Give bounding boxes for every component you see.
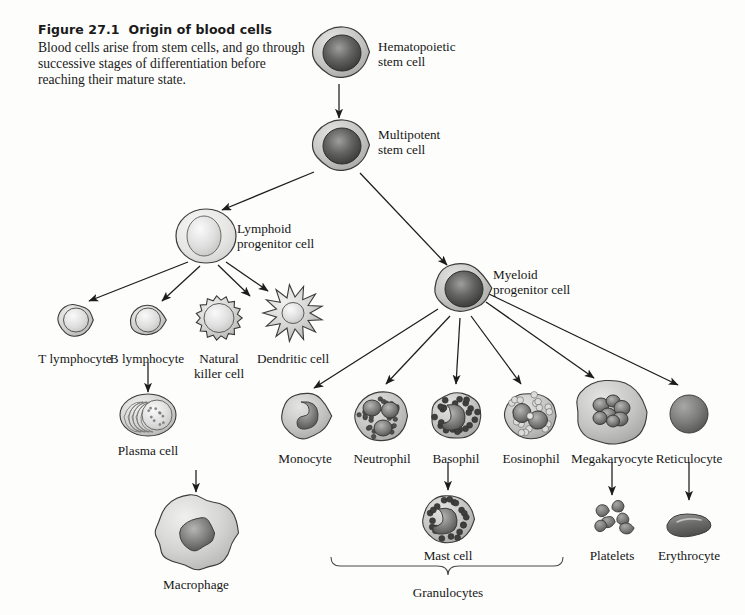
- label-t-lymphocyte: T lymphocyte: [38, 352, 111, 367]
- label-neutrophil: Neutrophil: [353, 452, 410, 467]
- granule: [457, 529, 463, 535]
- label-megakaryocyte: Megakaryocyte: [571, 452, 653, 467]
- granule: [536, 404, 543, 411]
- label-plasma-cell-line-1: Plasma cell: [118, 444, 178, 459]
- granule: [430, 518, 436, 524]
- label-basophil-line-1: Basophil: [433, 452, 480, 467]
- cell-b-lymphocyte: [130, 305, 166, 334]
- cell-neutrophil: [355, 392, 408, 441]
- label-dendritic-cell: Dendritic cell: [257, 352, 329, 367]
- label-multipotent-stem-cell-line-2: stem cell: [378, 143, 440, 158]
- label-mast-cell-line-1: Mast cell: [424, 549, 473, 564]
- granule: [466, 410, 472, 416]
- cell-natural-killer-cell: [196, 296, 242, 340]
- label-platelets: Platelets: [590, 549, 635, 564]
- label-myeloid-progenitor-cell: Myeloidprogenitor cell: [493, 268, 570, 297]
- cell-lymphoid-progenitor-cell: [176, 209, 236, 263]
- granule: [531, 392, 538, 399]
- cell-hematopoietic-stem-cell: [313, 27, 370, 78]
- cell-mast-cell: [423, 496, 475, 543]
- cell-layer: [58, 27, 711, 570]
- label-monocyte: Monocyte: [278, 452, 331, 467]
- label-lymphoid-progenitor-cell: Lymphoidprogenitor cell: [237, 222, 314, 251]
- label-basophil: Basophil: [433, 452, 480, 467]
- granule: [535, 398, 542, 405]
- label-megakaryocyte-line-1: Megakaryocyte: [571, 452, 653, 467]
- granule: [518, 429, 525, 436]
- granule: [463, 426, 469, 432]
- label-granulocytes: Granulocytes: [413, 586, 483, 601]
- label-b-lymphocyte: B lymphocyte: [110, 352, 184, 367]
- cell-eosinophil: [504, 392, 556, 439]
- granule: [442, 397, 448, 403]
- label-monocyte-line-1: Monocyte: [278, 452, 331, 467]
- cell-dendritic-cell: [263, 285, 322, 342]
- granule: [159, 412, 161, 414]
- cell-erythrocyte: [667, 514, 711, 537]
- cell-plasma-cell: [120, 394, 176, 436]
- label-t-lymphocyte-line-1: T lymphocyte: [38, 352, 111, 367]
- granule: [448, 533, 454, 539]
- label-natural-killer-cell-line-2: killer cell: [194, 367, 244, 382]
- platelet: [596, 505, 609, 517]
- granule: [392, 423, 397, 428]
- label-macrophage-line-1: Macrophage: [163, 578, 229, 593]
- label-natural-killer-cell-line-1: Natural: [194, 352, 244, 367]
- granule: [463, 514, 469, 520]
- cell-megakaryocyte: [577, 380, 647, 444]
- label-platelets-line-1: Platelets: [590, 549, 635, 564]
- granule: [371, 434, 376, 439]
- granule: [150, 407, 152, 409]
- label-eosinophil-line-1: Eosinophil: [502, 452, 559, 467]
- label-myeloid-progenitor-cell-line-1: Myeloid: [493, 268, 570, 283]
- cell-macrophage: [155, 495, 238, 570]
- arrow-lymphoid-to-t: [89, 262, 188, 301]
- granule: [438, 404, 444, 410]
- figure-origin-of-blood-cells: Figure 27.1 Origin of blood cells Blood …: [0, 0, 745, 615]
- label-erythrocyte: Erythrocyte: [658, 549, 720, 564]
- label-hematopoietic-stem-cell: Hematopoieticstem cell: [378, 40, 456, 69]
- cell-multipotent-stem-cell: [313, 120, 370, 171]
- granule: [432, 414, 438, 420]
- platelet: [595, 520, 607, 532]
- arrow-myeloid-to-basophil: [456, 318, 460, 384]
- label-multipotent-stem-cell-line-1: Multipotent: [378, 128, 440, 143]
- cell-t-lymphocyte: [58, 305, 93, 337]
- granule: [455, 535, 461, 541]
- granule: [517, 397, 524, 404]
- label-myeloid-progenitor-cell-line-2: progenitor cell: [493, 283, 570, 298]
- label-plasma-cell: Plasma cell: [118, 444, 178, 459]
- label-macrophage: Macrophage: [163, 578, 229, 593]
- cell-basophil: [432, 393, 481, 438]
- granule: [475, 409, 481, 415]
- granule: [159, 423, 161, 425]
- granule: [368, 425, 373, 430]
- granule: [461, 522, 467, 528]
- label-erythrocyte-line-1: Erythrocyte: [658, 549, 720, 564]
- cell-myeloid-progenitor-cell: [435, 264, 492, 312]
- granule: [148, 410, 150, 412]
- granule: [464, 397, 470, 403]
- granule: [357, 413, 362, 418]
- platelet: [612, 500, 624, 512]
- label-lymphoid-progenitor-cell-line-1: Lymphoid: [237, 222, 314, 237]
- arrow-myeloid-to-neutrophil: [386, 316, 450, 384]
- label-reticulocyte-line-1: Reticulocyte: [656, 452, 723, 467]
- label-granulocytes-line-1: Granulocytes: [413, 586, 483, 601]
- label-mast-cell: Mast cell: [424, 549, 473, 564]
- granule: [457, 396, 463, 402]
- arrow-myeloid-to-eosinophil: [471, 316, 521, 384]
- cell-monocyte: [282, 393, 332, 438]
- label-natural-killer-cell: Naturalkiller cell: [194, 352, 244, 381]
- label-dendritic-cell-line-1: Dendritic cell: [257, 352, 329, 367]
- granule: [153, 420, 155, 422]
- granule: [472, 417, 478, 423]
- platelet: [620, 523, 635, 534]
- label-lymphoid-progenitor-cell-line-2: progenitor cell: [237, 237, 314, 252]
- label-reticulocyte: Reticulocyte: [656, 452, 723, 467]
- arrow-myeloid-to-megakaryocyte: [486, 302, 594, 378]
- granule: [162, 415, 164, 417]
- label-multipotent-stem-cell: Multipotentstem cell: [378, 128, 440, 157]
- label-neutrophil-line-1: Neutrophil: [353, 452, 410, 467]
- arrow-mpp-to-lymphoid: [222, 172, 314, 210]
